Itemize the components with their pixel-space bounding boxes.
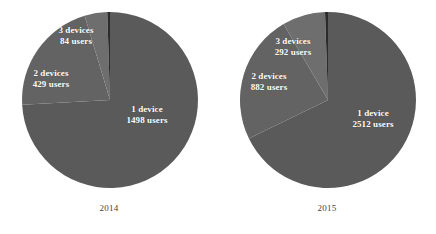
pie-chart-2015 [218, 0, 436, 196]
slice-label-line2: 2512 users [330, 119, 416, 130]
pie-svg-2015 [218, 0, 436, 196]
slice-label-line2: 429 users [8, 79, 94, 90]
slice-label-line2: 84 users [33, 36, 119, 47]
slice-label-line1: 2 devices [226, 71, 312, 82]
slice-label-line1: 1 device [104, 104, 190, 115]
slice-label-line1: 2 devices [8, 68, 94, 79]
slice-label-2014-3-devices: 3 devices 84 users [33, 25, 119, 47]
slice-label-2015-1-device: 1 device 2512 users [330, 108, 416, 130]
pie-chart-figure: 3 devices 84 users 2 devices 429 users 1… [0, 0, 436, 234]
slice-label-line1: 1 device [330, 108, 416, 119]
chart-caption-2014: 2014 [0, 203, 218, 213]
slice-label-2015-2-devices: 2 devices 882 users [226, 71, 312, 93]
chart-caption-2015: 2015 [218, 203, 436, 213]
slice-label-line1: 3 devices [250, 36, 336, 47]
slice-label-line2: 292 users [250, 47, 336, 58]
slice-label-2014-1-device: 1 device 1498 users [104, 104, 190, 126]
chart-panel-2015: 3 devices 292 users 2 devices 882 users … [218, 0, 436, 234]
slice-label-line2: 1498 users [104, 115, 190, 126]
slice-label-2014-2-devices: 2 devices 429 users [8, 68, 94, 90]
slice-label-line2: 882 users [226, 82, 312, 93]
slice-label-2015-3-devices: 3 devices 292 users [250, 36, 336, 58]
chart-panel-2014: 3 devices 84 users 2 devices 429 users 1… [0, 0, 218, 234]
slice-label-line1: 3 devices [33, 25, 119, 36]
